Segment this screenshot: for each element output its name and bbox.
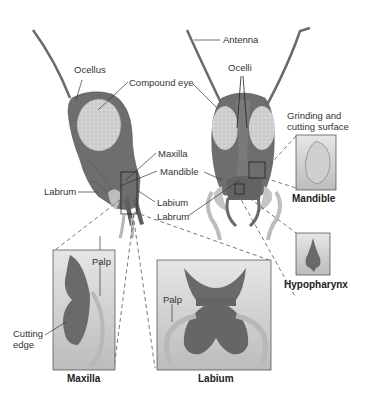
label-grinding-line1: Grinding and [287, 110, 341, 121]
mandible-inset [296, 135, 336, 190]
side-view-head [33, 30, 144, 238]
label-grinding-line2: cutting surface [287, 121, 349, 132]
label-compound-eye: Compound eye [129, 77, 193, 88]
caption-maxilla: Maxilla [67, 373, 100, 385]
label-maxilla: Maxilla [158, 148, 188, 159]
label-ocelli: Ocelli [228, 62, 252, 73]
label-palp-maxilla: Palp [92, 256, 111, 267]
insect-mouthparts-diagram: Ocellus Compound eye Antenna Ocelli Maxi… [0, 0, 366, 400]
compound-eye-front-right [249, 106, 275, 150]
label-palp-labium: Palp [163, 294, 182, 305]
hypopharynx-inset [296, 233, 330, 275]
label-antenna: Antenna [223, 34, 258, 45]
label-labrum-center: Labrum [157, 211, 189, 222]
caption-labium: Labium [198, 373, 234, 385]
label-labrum-left: Labrum [44, 186, 76, 197]
compound-eye-side [77, 99, 121, 151]
label-cutting-line2: edge [13, 339, 34, 350]
antenna-left [33, 30, 70, 98]
front-view-head [187, 28, 310, 240]
caption-mandible: Mandible [292, 193, 335, 205]
label-labium: Labium [157, 197, 188, 208]
maxilla-inset [45, 250, 115, 370]
label-cutting-line1: Cutting [13, 328, 43, 339]
label-mandible: Mandible [160, 166, 199, 177]
compound-eye-front-left [212, 106, 238, 150]
label-ocellus: Ocellus [74, 64, 106, 75]
labium-inset [157, 260, 271, 370]
caption-hypopharynx: Hypopharynx [284, 279, 348, 291]
